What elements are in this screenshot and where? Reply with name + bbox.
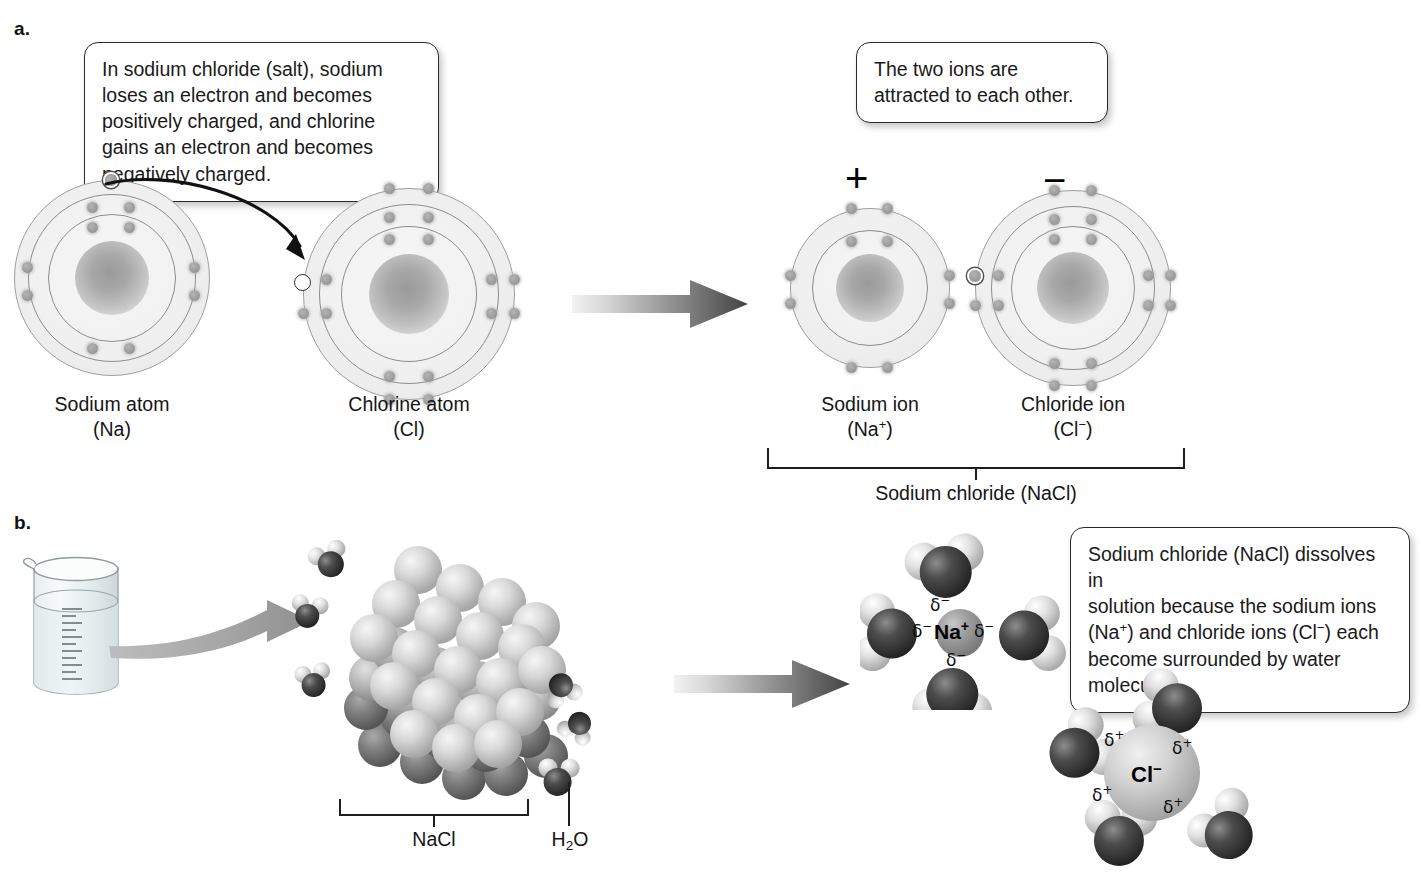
- electron: [486, 274, 497, 285]
- transferred-electron-highlighted: [969, 270, 981, 282]
- electron: [993, 300, 1004, 311]
- nacl-bracket: [338, 797, 530, 829]
- electron: [882, 236, 893, 247]
- electron: [1049, 234, 1060, 245]
- electron: [384, 212, 395, 223]
- water-leader-line: [562, 782, 576, 828]
- sodium-atom-name: Sodium atom: [55, 393, 170, 415]
- chloride-ion-diagram: [975, 190, 1171, 386]
- electron: [423, 234, 434, 245]
- callout-attraction-text: The two ions are attracted to each other…: [874, 56, 1091, 108]
- water-label: H2O: [524, 828, 616, 851]
- electron: [846, 236, 857, 247]
- sodium-chloride-bracket-label: Sodium chloride (NaCl): [766, 482, 1186, 505]
- electron: [321, 274, 332, 285]
- electron: [993, 270, 1004, 281]
- figure-root: a. In sodium chloride (salt), sodium los…: [0, 0, 1421, 896]
- callout-dissolution-line3: (Na+) and chloride ions (Cl−) each: [1088, 619, 1393, 645]
- electron: [87, 202, 98, 213]
- chloride-ion-label: Chloride ion (Cl−): [975, 392, 1171, 443]
- positive-charge-sign: +: [845, 158, 868, 198]
- electron: [1049, 185, 1060, 196]
- chloride-ion-name: Chloride ion: [1021, 393, 1125, 415]
- electron: [1086, 358, 1097, 369]
- chlorine-atom-formula: (Cl): [393, 418, 424, 440]
- process-arrow-a: [570, 278, 750, 330]
- sodium-ion-name: Sodium ion: [821, 393, 919, 415]
- dissolve-curved-arrow: [105, 598, 315, 674]
- electron: [384, 183, 395, 194]
- chloride-ion-solvated-label: Cl−: [1131, 762, 1162, 788]
- electron: [785, 270, 796, 281]
- electron: [87, 222, 98, 233]
- panel-letter-a: a.: [14, 18, 30, 40]
- electron: [486, 308, 497, 319]
- electron: [882, 362, 893, 373]
- electron: [298, 308, 309, 319]
- callout-ionic-bond-text: In sodium chloride (salt), sodium loses …: [102, 56, 422, 187]
- electron: [1086, 214, 1097, 225]
- electron: [1049, 214, 1060, 225]
- electron: [423, 212, 434, 223]
- sodium-ion-label: Sodium ion (Na+): [770, 392, 970, 443]
- electron: [785, 298, 796, 309]
- electron: [944, 270, 955, 281]
- electron-vacancy: [294, 274, 311, 291]
- atomic-nucleus: [369, 254, 449, 334]
- chlorine-atom-diagram: [303, 188, 515, 400]
- sodium-chloride-bracket: [766, 446, 1186, 482]
- process-arrow-b: [672, 658, 852, 710]
- delta-positive-lower-left: δ+: [1092, 785, 1112, 805]
- panel-letter-b: b.: [14, 512, 31, 534]
- electron: [423, 371, 434, 382]
- callout-dissolution-line1: Sodium chloride (NaCl) dissolves in: [1088, 541, 1393, 593]
- electron: [846, 203, 857, 214]
- chlorine-atom-name: Chlorine atom: [348, 393, 469, 415]
- electron: [1049, 380, 1060, 391]
- electron: [509, 274, 520, 285]
- electron: [384, 234, 395, 245]
- chlorine-atom-label: Chlorine atom (Cl): [303, 392, 515, 443]
- electron: [1165, 300, 1176, 311]
- electron: [321, 308, 332, 319]
- callout-dissolution-line2: solution because the sodium ions: [1088, 593, 1393, 619]
- delta-positive-lower-right: δ+: [1163, 797, 1183, 817]
- delta-positive-upper-left: δ+: [1104, 730, 1124, 750]
- atomic-nucleus: [1037, 252, 1109, 324]
- delta-negative-top: δ−: [930, 595, 950, 615]
- electron: [509, 308, 520, 319]
- electron-transfer-arrow: [100, 170, 330, 280]
- sodium-ion-solvated-label: Na+: [934, 620, 969, 644]
- electron: [1086, 185, 1097, 196]
- electron: [1143, 270, 1154, 281]
- electron: [423, 183, 434, 194]
- delta-negative-bottom: δ−: [946, 650, 966, 670]
- electron: [1165, 270, 1176, 281]
- electron: [1086, 234, 1097, 245]
- electron: [124, 343, 135, 354]
- sodium-ion-diagram: [790, 208, 950, 368]
- chloride-ion-formula: (Cl−): [1054, 418, 1093, 440]
- delta-positive-upper-right: δ+: [1172, 738, 1192, 758]
- electron: [22, 262, 33, 273]
- electron: [882, 203, 893, 214]
- electron: [22, 290, 33, 301]
- sodium-atom-formula: (Na): [93, 418, 131, 440]
- nacl-bracket-label: NaCl: [338, 828, 530, 851]
- electron: [1143, 300, 1154, 311]
- delta-negative-left: δ−: [912, 621, 932, 641]
- electron: [846, 362, 857, 373]
- callout-attraction: The two ions are attracted to each other…: [856, 42, 1108, 123]
- sodium-ion-formula: (Na+): [847, 418, 892, 440]
- electron: [944, 298, 955, 309]
- electron: [1049, 358, 1060, 369]
- electron: [384, 371, 395, 382]
- delta-negative-right: δ−: [974, 621, 994, 641]
- electron: [87, 343, 98, 354]
- sodium-atom-label: Sodium atom (Na): [14, 392, 210, 443]
- electron: [189, 290, 200, 301]
- electron: [970, 300, 981, 311]
- electron: [1086, 380, 1097, 391]
- atomic-nucleus: [836, 254, 904, 322]
